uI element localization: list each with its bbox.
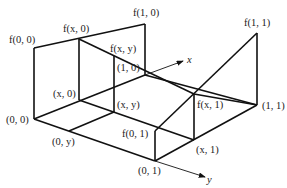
x-axis-label: x [186, 54, 192, 65]
label-p01: (0, 1) [138, 165, 161, 177]
label-p00: (0, 0) [6, 114, 29, 126]
label-f11: f(1, 1) [244, 17, 271, 29]
label-f10: f(1, 0) [133, 7, 160, 19]
label-f00: f(0, 0) [9, 34, 36, 46]
y-axis-arrow [155, 161, 205, 177]
label-p0y: (0, y) [52, 136, 75, 148]
base-edge-x0 [34, 75, 145, 119]
x-axis-arrow [145, 61, 183, 75]
label-fx1: f(x, 1) [197, 99, 224, 111]
label-px1: (x, 1) [196, 144, 219, 156]
label-fxy: f(x, y) [110, 43, 137, 55]
base-line-y [69, 112, 114, 131]
label-p10: (1, 0) [117, 62, 140, 74]
label-px0: (x, 0) [53, 88, 76, 100]
label-pxy: (x, y) [117, 99, 140, 111]
label-fx0: f(x, 0) [63, 23, 90, 35]
label-f01: f(0, 1) [122, 128, 149, 140]
bilinear-interpolation-diagram: x y f(0, 0) f(x, 0) f(1, 0) f(1, 1) f(x,… [0, 0, 287, 188]
label-p11: (1, 1) [262, 100, 285, 112]
y-axis-label: y [206, 174, 212, 185]
